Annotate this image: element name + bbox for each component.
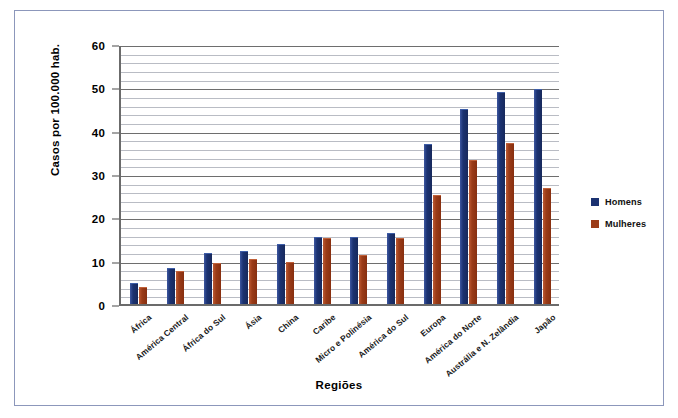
bar-group [194, 46, 231, 304]
y-axis-tick-label: 10 [92, 257, 105, 269]
legend-item: Homens [591, 197, 677, 207]
bar-group [488, 46, 525, 304]
bar-homens [424, 144, 432, 304]
y-axis-tick-label: 0 [98, 300, 105, 312]
legend-swatch-icon [591, 198, 599, 206]
bar-group [158, 46, 195, 304]
bar-homens [204, 253, 212, 304]
y-axis-tick-label: 40 [92, 127, 105, 139]
bar-mulheres [396, 238, 404, 304]
bar-mulheres [359, 255, 367, 304]
bar-group [378, 46, 415, 304]
bar-homens [460, 109, 468, 304]
bar-mulheres [213, 263, 221, 304]
y-axis-tick [112, 306, 119, 307]
bar-group [341, 46, 378, 304]
x-axis-category-label: África [129, 312, 154, 335]
x-axis-category-labels: ÁfricaAmérica CentralÁfrica do SulÁsiaCh… [119, 308, 559, 378]
x-axis-category-label: China [276, 312, 301, 335]
chart-frame: Casos por 100.000 hab. 0102030405060 Áfr… [14, 10, 664, 406]
bar-group [268, 46, 305, 304]
bar-mulheres [469, 160, 477, 304]
y-axis-tick [112, 219, 119, 220]
bar-homens [387, 233, 395, 304]
y-axis-tick-label: 50 [92, 83, 105, 95]
bar-homens [350, 237, 358, 304]
bar-homens [277, 244, 285, 304]
chart-legend: HomensMulheres [591, 197, 677, 241]
y-axis-tick [112, 46, 119, 47]
y-axis-tick [112, 262, 119, 263]
x-axis-category-label: Europa [418, 312, 447, 339]
bar-homens [167, 268, 175, 304]
bar-group [451, 46, 488, 304]
bar-group [304, 46, 341, 304]
plot-area [119, 46, 559, 306]
bar-group [231, 46, 268, 304]
bar-group [524, 46, 561, 304]
bar-homens [497, 92, 505, 304]
chart-screenshot: Casos por 100.000 hab. 0102030405060 Áfr… [0, 0, 678, 418]
legend-label: Homens [605, 197, 642, 207]
bar-mulheres [433, 195, 441, 304]
bar-mulheres [176, 271, 184, 305]
y-axis-tick-label: 30 [92, 170, 105, 182]
bar-mulheres [286, 262, 294, 304]
y-axis-tick-label: 60 [92, 40, 105, 52]
x-axis-category-label: Caribe [310, 312, 337, 337]
y-axis-tick [112, 176, 119, 177]
bar-mulheres [506, 143, 514, 304]
x-axis-category-label: Austrália e N. Zelândia [443, 312, 520, 379]
bar-group [414, 46, 451, 304]
bar-mulheres [323, 238, 331, 304]
y-axis-labels: 0102030405060 [15, 11, 115, 306]
x-axis-category-label: Japão [532, 312, 557, 336]
bar-mulheres [249, 259, 257, 304]
bar-mulheres [543, 188, 551, 304]
bar-group [121, 46, 158, 304]
y-axis-tick-label: 20 [92, 213, 105, 225]
bar-mulheres [139, 287, 147, 304]
y-axis-tick [112, 132, 119, 133]
x-axis-title: Regiões [15, 379, 663, 391]
bar-homens [130, 283, 138, 304]
legend-swatch-icon [591, 220, 599, 228]
legend-item: Mulheres [591, 219, 677, 229]
bar-homens [314, 237, 322, 304]
x-axis-category-label: Ásia [243, 312, 263, 331]
legend-label: Mulheres [605, 219, 646, 229]
bar-homens [240, 251, 248, 304]
y-axis-tick [112, 89, 119, 90]
bar-homens [534, 89, 542, 304]
bar-series-layer [121, 46, 559, 304]
